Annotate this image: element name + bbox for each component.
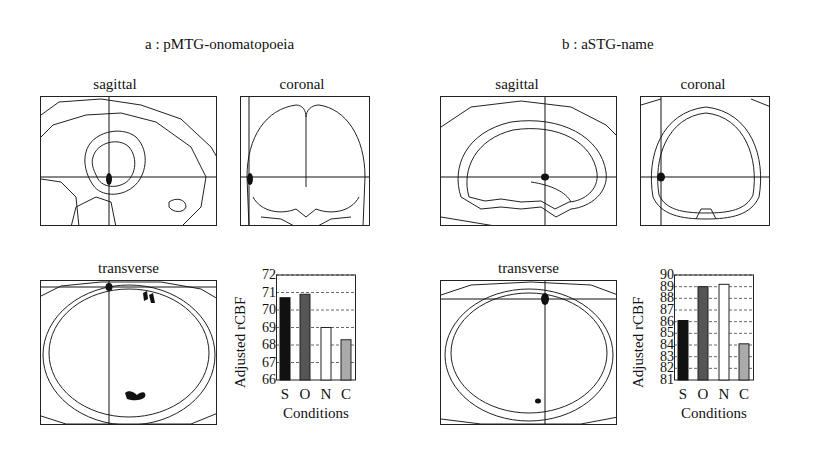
y-tick: 69: [250, 321, 276, 335]
x-tick-N: N: [317, 386, 335, 403]
panel-a-transverse-label: transverse: [40, 260, 217, 277]
brain-coronal-glassbrain-icon: [641, 97, 770, 226]
brain-transverse-glassbrain-icon: [41, 281, 217, 425]
panel-b-sagittal-view: [440, 96, 617, 226]
panel-b-bar-chart: Adjusted rCBF 90 89 88 87 86 85 84 83 82…: [630, 268, 790, 433]
panel-b-transverse-label: transverse: [440, 260, 617, 277]
x-tick-C: C: [337, 386, 355, 403]
panel-b-y-axis-label: Adjusted rCBF: [630, 297, 647, 388]
x-tick-O: O: [694, 386, 712, 403]
panel-b-transverse-view: [440, 280, 617, 425]
x-tick-S: S: [674, 386, 692, 403]
panel-b-coronal-label: coronal: [633, 76, 773, 93]
panel-a-coronal-label: coronal: [232, 76, 372, 93]
panel-a-plot-area: [276, 268, 356, 383]
x-tick-C: C: [735, 386, 753, 403]
y-tick: 72: [250, 268, 276, 282]
panel-a-transverse-view: [40, 280, 217, 425]
panel-a-y-axis-label: Adjusted rCBF: [232, 297, 249, 388]
y-tick: 81: [648, 373, 674, 387]
y-tick: 67: [250, 356, 276, 370]
panel-b-coronal-view: [640, 96, 770, 226]
y-tick: 70: [250, 303, 276, 317]
brain-transverse-glassbrain-icon: [441, 281, 617, 425]
panel-a-sagittal-label: sagittal: [40, 76, 190, 93]
brain-coronal-glassbrain-icon: [241, 97, 370, 226]
panel-a-title: a : pMTG-onomatopoeia: [145, 36, 294, 53]
y-tick: 71: [250, 286, 276, 300]
panel-b-title: b : aSTG-name: [562, 36, 654, 53]
panel-b-sagittal-label: sagittal: [442, 76, 592, 93]
panel-a-sagittal-view: [40, 96, 217, 226]
x-tick-O: O: [296, 386, 314, 403]
x-tick-S: S: [276, 386, 294, 403]
brain-sagittal-glassbrain-icon: [441, 97, 617, 226]
panel-a-coronal-view: [240, 96, 370, 226]
y-tick: 66: [250, 373, 276, 387]
panel-b-plot-area: [674, 268, 754, 383]
panel-a-bar-chart: Adjusted rCBF 72 71 70 69 68 67 66 S O N…: [232, 268, 392, 433]
x-tick-N: N: [715, 386, 733, 403]
brain-sagittal-glassbrain-icon: [41, 97, 217, 226]
panel-b-x-axis-label: Conditions: [664, 405, 764, 422]
panel-a-x-axis-label: Conditions: [266, 405, 366, 422]
y-tick: 68: [250, 338, 276, 352]
